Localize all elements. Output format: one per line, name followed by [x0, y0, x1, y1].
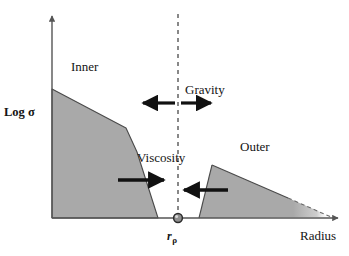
figure-container: Inner Outer Gravity Viscosity Radius Log…: [0, 0, 349, 256]
planet-radius-label-subscript: ρ: [172, 235, 177, 245]
viscosity-label: Viscosity: [137, 151, 185, 164]
y-axis-label-text: Log: [4, 105, 28, 119]
planet-radius-label-base: r: [167, 229, 172, 243]
sigma-icon: σ: [28, 105, 35, 119]
planet-position-marker-highlight: [175, 215, 178, 218]
inner-region-label: Inner: [71, 60, 98, 73]
outer-region-label: Outer: [240, 140, 270, 153]
x-axis-label: Radius: [300, 229, 336, 242]
y-axis-label: Log σ: [4, 106, 35, 119]
planet-position-marker: [174, 214, 183, 223]
schematic-diagram: [0, 0, 349, 256]
planet-radius-label: rρ: [167, 230, 177, 245]
gravity-label: Gravity: [185, 83, 225, 96]
